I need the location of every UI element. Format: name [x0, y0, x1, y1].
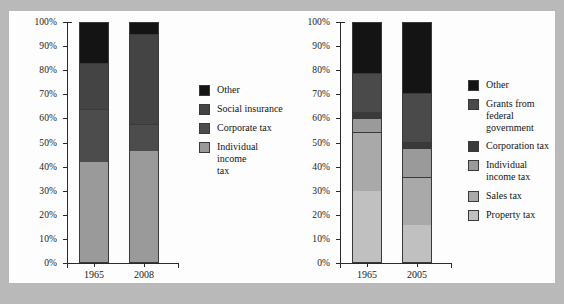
bar-segment[interactable]: [353, 112, 381, 118]
y-tick-100pct: 100%: [63, 22, 68, 23]
bar-segment[interactable]: [80, 109, 108, 163]
x-axis-end-cap: [451, 263, 452, 268]
legend-swatch-icon: [199, 104, 210, 115]
chart-panel-federal: 0%10%20%30%40%50%60%70%80%90%100% 196520…: [9, 11, 282, 283]
legend-swatch-icon: [468, 160, 479, 171]
legend-item[interactable]: Individual income tax: [199, 141, 284, 176]
legend-swatch-icon: [199, 85, 210, 96]
bar-1965[interactable]: [352, 22, 382, 263]
legend-item[interactable]: Property tax: [468, 209, 560, 221]
y-tick-30pct: 30%: [336, 191, 341, 192]
bar-segment[interactable]: [130, 22, 158, 34]
bar-segment[interactable]: [353, 132, 381, 192]
y-tick-label: 60%: [312, 113, 330, 123]
legend-swatch-icon: [468, 80, 479, 91]
legend-federal: OtherSocial insuranceCorporate taxIndivi…: [199, 84, 284, 183]
bar-segment[interactable]: [403, 22, 431, 93]
y-tick-10pct: 10%: [336, 239, 341, 240]
y-tick-label: 80%: [312, 65, 330, 75]
legend-item[interactable]: Social insurance: [199, 103, 284, 115]
x-axis-label-2005: 2005: [407, 269, 427, 280]
y-tick-label: 40%: [312, 162, 330, 172]
x-axis-label-2008: 2008: [134, 269, 154, 280]
y-tick-40pct: 40%: [336, 167, 341, 168]
bar-segment[interactable]: [353, 73, 381, 112]
legend-item[interactable]: Corporate tax: [199, 122, 284, 134]
y-tick-70pct: 70%: [63, 94, 68, 95]
y-tick-label: 80%: [39, 65, 57, 75]
legend-swatch-icon: [199, 142, 210, 153]
legend-state-local: OtherGrants from federal governmentCorpo…: [468, 79, 560, 228]
legend-swatch-icon: [468, 210, 479, 221]
y-tick-label: 50%: [39, 138, 57, 148]
bar-segment[interactable]: [353, 191, 381, 262]
bar-segment[interactable]: [403, 177, 431, 225]
y-tick-label: 70%: [39, 89, 57, 99]
y-tick-label: 40%: [39, 162, 57, 172]
legend-label: Property tax: [486, 209, 535, 221]
chart-panel-state-local: 0%10%20%30%40%50%60%70%80%90%100% 196520…: [282, 11, 555, 283]
x-tick: [417, 263, 418, 267]
bar-segment[interactable]: [80, 162, 108, 262]
x-tick: [367, 263, 368, 267]
legend-label: Other: [217, 84, 240, 96]
x-axis-end-cap: [340, 263, 341, 268]
bar-2008[interactable]: [129, 22, 159, 263]
bar-segment[interactable]: [130, 151, 158, 262]
bar-segment[interactable]: [353, 22, 381, 73]
y-tick-60pct: 60%: [63, 118, 68, 119]
y-tick-label: 100%: [34, 17, 57, 27]
bar-segment[interactable]: [403, 225, 431, 262]
legend-label: Other: [486, 79, 509, 91]
x-axis-end-cap: [67, 263, 68, 268]
legend-item[interactable]: Corporation tax: [468, 140, 560, 152]
y-tick-40pct: 40%: [63, 167, 68, 168]
bar-segment[interactable]: [403, 148, 431, 178]
legend-label: Sales tax: [486, 190, 522, 202]
y-tick-label: 70%: [312, 89, 330, 99]
x-axis-line: [340, 263, 452, 264]
legend-item[interactable]: Other: [199, 84, 284, 96]
legend-item[interactable]: Grants from federal government: [468, 98, 560, 133]
y-tick-label: 60%: [39, 113, 57, 123]
bar-1965[interactable]: [79, 22, 109, 263]
x-axis-label-1965: 1965: [84, 269, 104, 280]
plot-area-federal: 0%10%20%30%40%50%60%70%80%90%100% 196520…: [67, 22, 179, 264]
y-tick-80pct: 80%: [63, 70, 68, 71]
y-tick-label: 30%: [312, 186, 330, 196]
x-axis-line: [67, 263, 179, 264]
x-axis-label-1965: 1965: [357, 269, 377, 280]
legend-item[interactable]: Other: [468, 79, 560, 91]
y-tick-label: 10%: [39, 234, 57, 244]
legend-item[interactable]: Individual income tax: [468, 159, 560, 183]
y-tick-label: 100%: [307, 17, 330, 27]
bar-segment[interactable]: [130, 34, 158, 124]
legend-item[interactable]: Sales tax: [468, 190, 560, 202]
bar-segment[interactable]: [80, 63, 108, 109]
y-tick-20pct: 20%: [336, 215, 341, 216]
y-tick-90pct: 90%: [336, 46, 341, 47]
plot-area-state-local: 0%10%20%30%40%50%60%70%80%90%100% 196520…: [340, 22, 452, 264]
y-tick-30pct: 30%: [63, 191, 68, 192]
y-tick-label: 30%: [39, 186, 57, 196]
y-tick-label: 20%: [39, 210, 57, 220]
legend-label: Corporate tax: [217, 122, 272, 134]
bar-2005[interactable]: [402, 22, 432, 263]
x-tick: [144, 263, 145, 267]
legend-label: Individual income tax: [486, 159, 530, 183]
y-tick-label: 90%: [39, 41, 57, 51]
y-tick-label: 0%: [44, 258, 57, 268]
legend-swatch-icon: [468, 141, 479, 152]
legend-label: Social insurance: [217, 103, 283, 115]
y-tick-label: 20%: [312, 210, 330, 220]
bar-segment[interactable]: [403, 142, 431, 148]
bar-segment[interactable]: [130, 124, 158, 152]
bar-segment[interactable]: [403, 93, 431, 142]
bar-segment[interactable]: [80, 22, 108, 63]
y-tick-20pct: 20%: [63, 215, 68, 216]
y-tick-label: 10%: [312, 234, 330, 244]
x-axis-end-cap: [178, 263, 179, 268]
bar-segment[interactable]: [353, 118, 381, 132]
y-tick-80pct: 80%: [336, 70, 341, 71]
y-tick-50pct: 50%: [63, 143, 68, 144]
